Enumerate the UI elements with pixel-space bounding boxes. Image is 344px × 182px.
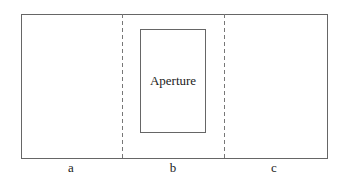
aperture-label: Aperture [150,74,196,87]
region-label-c: c [271,161,277,174]
diagram-canvas [0,0,344,182]
region-label-b: b [170,161,177,174]
region-label-a: a [68,161,74,174]
